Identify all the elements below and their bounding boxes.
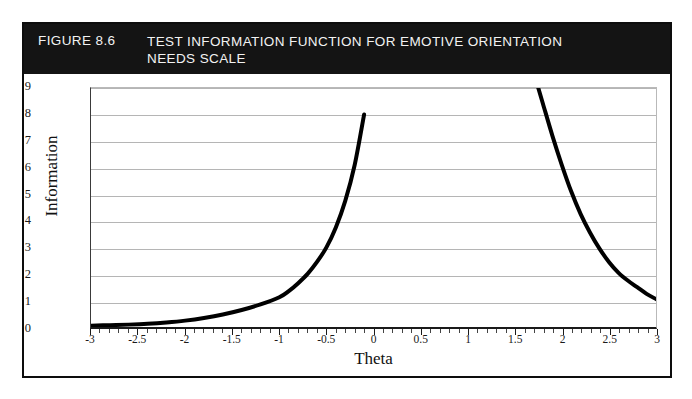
x-tick-mark-minor	[355, 329, 356, 333]
x-tick-mark	[374, 329, 375, 335]
y-tick-label: 5	[9, 187, 31, 202]
x-tick-mark	[421, 329, 422, 335]
x-tick-mark-minor	[156, 329, 157, 333]
x-tick-mark-minor	[600, 329, 601, 333]
x-tick-mark-minor	[496, 329, 497, 333]
figure-number-label: FIGURE 8.6	[38, 33, 116, 48]
x-tick-mark-minor	[109, 329, 110, 333]
x-tick-mark-minor	[525, 329, 526, 333]
x-tick-mark-minor	[128, 329, 129, 333]
x-tick-mark-minor	[317, 329, 318, 333]
y-tick-label: 8	[9, 106, 31, 121]
x-tick-mark-minor	[572, 329, 573, 333]
x-tick-mark-minor	[166, 329, 167, 333]
x-tick-mark-minor	[440, 329, 441, 333]
x-tick-mark-minor	[298, 329, 299, 333]
x-tick-mark-minor	[194, 329, 195, 333]
chart-area: Information Theta 0123456789 -3-2.5-2-1.…	[24, 74, 670, 378]
y-tick-label: 6	[9, 160, 31, 175]
x-tick-mark-minor	[477, 329, 478, 333]
x-tick-mark-minor	[222, 329, 223, 333]
curve-right-branch	[538, 88, 656, 299]
x-tick-mark	[468, 329, 469, 335]
curve-left-branch	[91, 115, 364, 326]
x-tick-mark-minor	[619, 329, 620, 333]
x-tick-mark	[185, 329, 186, 335]
x-tick-mark-minor	[430, 329, 431, 333]
x-tick-mark-minor	[213, 329, 214, 333]
figure-frame: FIGURE 8.6 TEST INFORMATION FUNCTION FOR…	[22, 22, 672, 378]
x-tick-mark-minor	[147, 329, 148, 333]
x-tick-mark-minor	[345, 329, 346, 333]
y-tick-label: 1	[9, 294, 31, 309]
x-tick-mark-minor	[260, 329, 261, 333]
x-tick-mark-minor	[175, 329, 176, 333]
x-tick-mark-minor	[411, 329, 412, 333]
x-tick-mark-minor	[449, 329, 450, 333]
information-curve	[91, 88, 656, 327]
x-tick-mark-minor	[364, 329, 365, 333]
x-tick-mark	[657, 329, 658, 335]
figure-title-line-2: NEEDS SCALE	[147, 50, 660, 67]
x-tick-mark-minor	[553, 329, 554, 333]
y-tick-label: 4	[9, 213, 31, 228]
x-tick-mark	[610, 329, 611, 335]
x-tick-mark	[563, 329, 564, 335]
y-tick-label: 0	[9, 321, 31, 336]
x-tick-mark	[279, 329, 280, 335]
x-tick-mark-minor	[638, 329, 639, 333]
x-tick-mark-minor	[591, 329, 592, 333]
x-tick-mark-minor	[251, 329, 252, 333]
y-tick-label: 7	[9, 133, 31, 148]
x-tick-mark-minor	[99, 329, 100, 333]
figure-header-bar: FIGURE 8.6 TEST INFORMATION FUNCTION FOR…	[24, 24, 670, 74]
x-tick-mark-minor	[581, 329, 582, 333]
x-tick-mark-minor	[629, 329, 630, 333]
x-tick-mark-minor	[402, 329, 403, 333]
x-tick-mark-minor	[506, 329, 507, 333]
x-tick-mark	[326, 329, 327, 335]
x-tick-mark-minor	[383, 329, 384, 333]
x-tick-mark	[232, 329, 233, 335]
x-tick-mark-minor	[241, 329, 242, 333]
x-tick-mark-minor	[118, 329, 119, 333]
x-tick-mark	[137, 329, 138, 335]
plot-area	[90, 87, 657, 329]
x-tick-mark-minor	[544, 329, 545, 333]
x-tick-mark-minor	[288, 329, 289, 333]
y-tick-label: 3	[9, 240, 31, 255]
x-tick-mark-minor	[270, 329, 271, 333]
figure-title: TEST INFORMATION FUNCTION FOR EMOTIVE OR…	[147, 33, 660, 67]
y-axis-title: Information	[42, 86, 62, 266]
x-tick-mark-minor	[336, 329, 337, 333]
x-tick-mark-minor	[459, 329, 460, 333]
x-tick-mark-minor	[487, 329, 488, 333]
x-tick-mark-minor	[534, 329, 535, 333]
figure-title-line-1: TEST INFORMATION FUNCTION FOR EMOTIVE OR…	[147, 33, 660, 50]
x-tick-mark-minor	[203, 329, 204, 333]
x-tick-mark-minor	[648, 329, 649, 333]
x-tick-mark	[515, 329, 516, 335]
x-axis-title: Theta	[90, 349, 657, 369]
y-tick-label: 2	[9, 267, 31, 282]
y-tick-label: 9	[9, 79, 31, 94]
x-tick-mark-minor	[307, 329, 308, 333]
x-tick-mark-minor	[392, 329, 393, 333]
x-tick-mark	[90, 329, 91, 335]
